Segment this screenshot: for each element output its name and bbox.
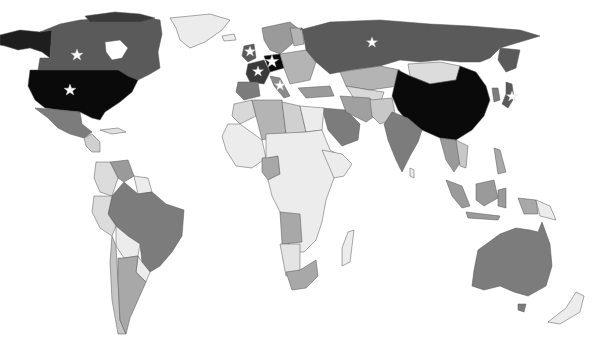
region-sri-lanka[interactable] — [410, 168, 414, 178]
world-choropleth-map — [0, 0, 599, 339]
region-angola[interactable] — [280, 212, 302, 244]
region-sulawesi[interactable] — [498, 188, 506, 208]
